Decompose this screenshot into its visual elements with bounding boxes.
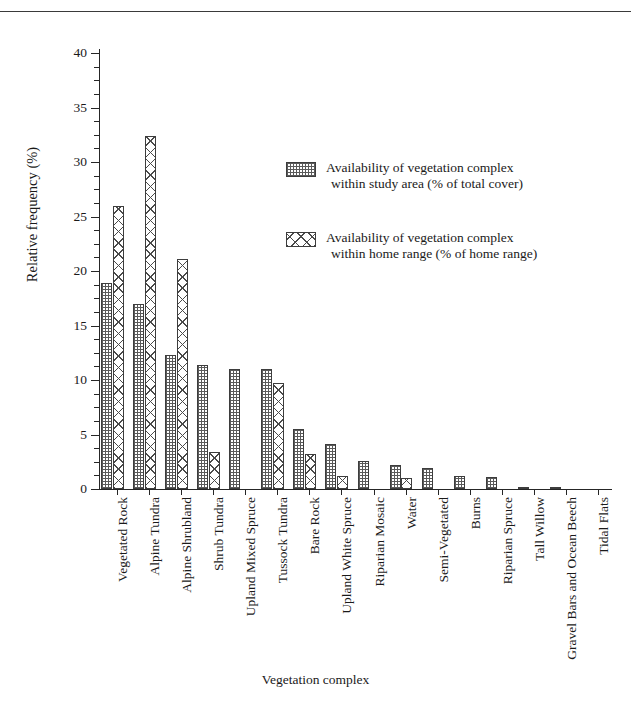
x-tick: [438, 489, 439, 495]
x-category-label: Alpine Tundra: [148, 497, 162, 575]
x-category-label: Tidal Flats: [597, 497, 611, 555]
bar-home-range: [273, 383, 284, 489]
legend-label-home-range: Availability of vegetation complex withi…: [326, 230, 537, 262]
x-tick: [309, 489, 310, 495]
bar-study-area: [390, 465, 401, 489]
bar-study-area: [261, 369, 272, 489]
legend-entry: Availability of vegetation complex withi…: [286, 160, 606, 200]
x-axis-line: [99, 489, 612, 490]
x-tick: [181, 489, 182, 495]
legend-swatch-home-range: [286, 232, 316, 247]
x-category-label: Vegetated Rock: [116, 497, 130, 582]
chart-legend: Availability of vegetation complex withi…: [286, 160, 606, 300]
x-category-label: Upland White Spruce: [340, 497, 354, 614]
x-category-label: Gravel Bars and Ocean Beech: [565, 497, 579, 660]
x-tick: [149, 489, 150, 495]
bar-study-area: [486, 477, 497, 489]
x-category-label: Riparian Mosaic: [373, 497, 387, 587]
x-category-label: Riparian Spruce: [501, 497, 515, 584]
bar-study-area: [293, 429, 304, 489]
bar-study-area: [229, 369, 240, 489]
y-tick-label: 15: [47, 319, 87, 333]
y-tick-label: 0: [47, 482, 87, 496]
x-tick: [277, 489, 278, 495]
y-tick-label: 35: [47, 101, 87, 115]
y-tick-label: 10: [47, 373, 87, 387]
legend-swatch-study-area: [286, 162, 316, 177]
bar-study-area: [422, 468, 433, 489]
x-tick: [502, 489, 503, 495]
x-tick: [598, 489, 599, 495]
bar-study-area: [550, 487, 561, 489]
bar-home-range: [305, 454, 316, 489]
legend-label-study-area: Availability of vegetation complex withi…: [326, 160, 523, 192]
y-tick-major: [91, 489, 100, 490]
x-tick: [245, 489, 246, 495]
legend-label-line2: within home range (% of home range): [326, 246, 537, 262]
bar-study-area: [518, 487, 529, 489]
bar-home-range: [113, 206, 124, 489]
y-tick-label: 20: [47, 264, 87, 278]
bar-study-area: [197, 365, 208, 489]
x-tick: [470, 489, 471, 495]
legend-label-line1: Availability of vegetation complex: [326, 230, 514, 245]
bar-study-area: [101, 283, 112, 489]
y-tick-label: 40: [47, 46, 87, 60]
bar-study-area: [165, 355, 176, 489]
x-category-label: Burns: [469, 497, 483, 529]
x-axis-title: Vegetation complex: [0, 672, 631, 688]
x-tick: [213, 489, 214, 495]
y-axis-title: Relative frequency (%): [24, 15, 41, 415]
bar-study-area: [325, 444, 336, 489]
bar-home-range: [209, 452, 220, 489]
x-category-label: Tussock Tundra: [276, 497, 290, 583]
x-category-label: Tall Willow: [533, 497, 547, 561]
x-tick: [534, 489, 535, 495]
bar-home-range: [401, 478, 412, 489]
x-category-label: Alpine Shrubland: [180, 497, 194, 593]
x-tick: [341, 489, 342, 495]
legend-entry: Availability of vegetation complex withi…: [286, 230, 606, 270]
x-tick: [566, 489, 567, 495]
y-tick-label: 25: [47, 210, 87, 224]
bar-study-area: [358, 461, 369, 489]
y-tick-label: 5: [47, 428, 87, 442]
bar-study-area: [133, 304, 144, 489]
bar-home-range: [145, 136, 156, 489]
x-category-label: Shrub Tundra: [212, 497, 226, 571]
legend-label-line2: within study area (% of total cover): [326, 176, 523, 192]
chart-figure: 0510152025303540 Vegetated RockAlpine Tu…: [0, 0, 631, 712]
bar-home-range: [177, 259, 188, 489]
x-category-label: Semi-Vegetated: [437, 497, 451, 582]
bar-home-range: [337, 476, 348, 489]
legend-label-line1: Availability of vegetation complex: [326, 160, 514, 175]
bar-study-area: [454, 476, 465, 489]
x-category-label: Upland Mixed Spruce: [244, 497, 258, 616]
x-tick: [406, 489, 407, 495]
y-tick-label: 30: [47, 155, 87, 169]
x-tick: [117, 489, 118, 495]
x-category-label: Water: [405, 497, 419, 529]
x-category-label: Bare Rock: [308, 497, 322, 554]
x-tick: [374, 489, 375, 495]
